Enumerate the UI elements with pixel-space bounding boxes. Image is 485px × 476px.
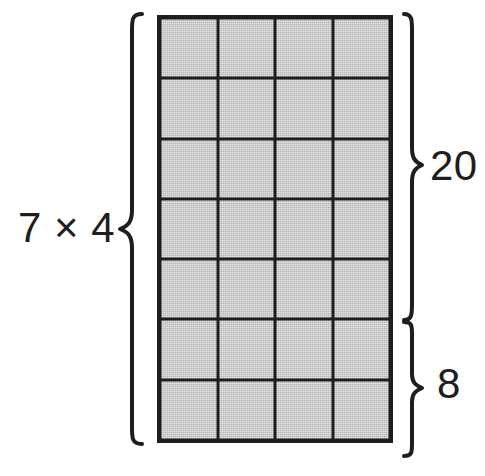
partition-lower-label: 8 [437, 360, 461, 408]
array-cell [275, 319, 333, 379]
factors-label: 7 × 4 [18, 204, 115, 252]
array-cell [275, 78, 333, 138]
array-cell [333, 139, 391, 199]
array-cell [218, 199, 276, 259]
array-cell [160, 259, 218, 319]
array-cell [218, 259, 276, 319]
array-cell [333, 259, 391, 319]
array-cell [333, 18, 391, 78]
left-brace-icon [118, 12, 144, 446]
diagram-canvas: 7 × 4 20 [0, 0, 485, 476]
array-cell [160, 319, 218, 379]
array-cell [275, 380, 333, 440]
array-cell [218, 380, 276, 440]
partition-upper-label: 20 [430, 142, 478, 190]
array-cell [333, 319, 391, 379]
right-brace-upper-icon [402, 12, 424, 322]
array-cell [218, 18, 276, 78]
array-cell [333, 199, 391, 259]
right-brace-lower-icon [402, 320, 424, 458]
array-cell [333, 78, 391, 138]
array-cell [275, 18, 333, 78]
array-cell [218, 139, 276, 199]
array-cell [160, 199, 218, 259]
array-grid [157, 15, 393, 443]
array-cell [275, 139, 333, 199]
array-cell [160, 139, 218, 199]
array-cell [333, 380, 391, 440]
array-cell [160, 18, 218, 78]
array-cell [218, 78, 276, 138]
array-cell [275, 259, 333, 319]
array-cell [160, 78, 218, 138]
array-cell [275, 199, 333, 259]
array-cell [160, 380, 218, 440]
array-cell [218, 319, 276, 379]
